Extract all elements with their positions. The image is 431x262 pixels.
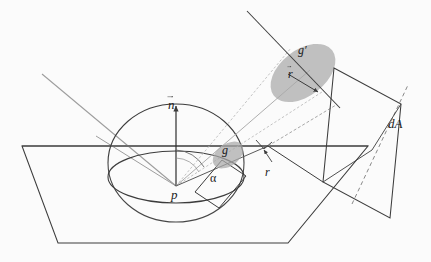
label-radius-r: r [265,166,270,178]
label-area-element: dA [388,117,402,130]
label-angle-alpha: α [210,172,216,184]
angle-alpha-arc [176,150,204,172]
figure-canvas [0,0,431,262]
hemisphere [22,104,368,222]
label-point-p: p [171,188,178,201]
label-patch-g-prime: g′ [298,44,307,56]
label-normal-vector: n [168,98,175,111]
geometry-figure: n p α g g′ r r dA [0,0,431,262]
ground-plane [22,146,368,243]
right-angle-marker [256,140,272,162]
incident-ray [42,74,176,186]
label-normal-vector-text: n [168,97,175,112]
da-plane-support-edge [268,146,323,182]
label-patch-g: g [222,144,228,156]
label-direction-vector-r: r [288,68,293,80]
label-direction-vector-text: r [288,67,293,81]
da-plane [323,68,408,218]
